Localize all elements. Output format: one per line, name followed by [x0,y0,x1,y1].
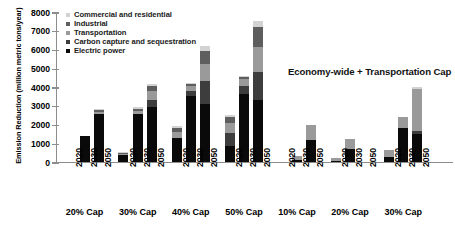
bar-segment-ccs [253,72,263,100]
bar-segment-ccs [239,86,249,94]
x-tick-label-year: 2020 [128,127,138,167]
bar-segment-tr [147,91,157,100]
bar-segment-ccs [200,81,210,104]
legend-label: Transportation [74,28,126,37]
x-tick-label-year: 2020 [340,127,350,167]
y-tick-label: 3000 [16,102,50,110]
x-tick-label-year: 2030 [195,127,205,167]
x-tick-label-year: 2030 [354,127,364,167]
bar-segment-tr [200,64,210,81]
x-tick-label-year: 2050 [103,127,113,167]
y-tick-label: 8000 [16,9,50,17]
x-tick-label-year: 2020 [74,127,84,167]
x-tick-label-year: 2020 [287,127,297,167]
bar-segment-tr [253,47,263,71]
bar-segment-ep [118,155,128,162]
y-tick [52,162,59,163]
x-tick-label-year: 2050 [262,127,272,167]
x-tick-label-year: 2050 [156,127,166,167]
legend-item: Commercial and residential [66,10,196,19]
y-tick-label: 1000 [16,140,50,148]
legend-item: Electric power [66,46,196,55]
x-tick-label-year: 2050 [368,127,378,167]
x-tick-label-year: 2030 [301,127,311,167]
x-tick-label-year: 2050 [209,127,219,167]
chart-root: Emission Reduction (million metric tons/… [0,0,455,234]
bar-segment-ind [253,27,263,48]
legend-item: Transportation [66,28,196,37]
legend-swatch-icon [66,22,70,26]
x-tick-label-year: 2030 [248,127,258,167]
bar-stack [118,152,128,161]
legend-item: Industrial [66,19,196,28]
legend-label: Commercial and residential [74,10,172,19]
legend-label: Carbon capture and sequestration [74,37,196,46]
legend-item: Carbon capture and sequestration [66,37,196,46]
legend-swatch-icon [66,31,70,35]
y-tick-label: 2000 [16,121,50,129]
x-tick-label-year: 2020 [393,127,403,167]
x-tick-label-year: 2020 [181,127,191,167]
x-group-label: 30% Cap [368,207,438,217]
legend-swatch-icon [66,13,70,17]
bar-segment-ind [200,51,210,64]
y-tick-label: 4000 [16,84,50,92]
bar-segment-ccs [147,100,157,108]
legend-swatch-icon [66,40,70,44]
y-tick-label: 0 [16,159,50,167]
y-tick-label: 6000 [16,46,50,54]
legend-label: Electric power [74,46,125,55]
y-tick-label: 5000 [16,65,50,73]
x-tick-label-year: 2050 [421,127,431,167]
legend-swatch-icon [66,49,70,53]
x-tick-label-year: 2020 [234,127,244,167]
x-tick-label-year: 2030 [407,127,417,167]
x-tick-label-year: 2030 [89,127,99,167]
y-tick-label: 7000 [16,27,50,35]
x-tick-label-year: 2050 [315,127,325,167]
annotation-economy-wide-transportation-cap: Economy-wide + Transportation Cap [288,66,451,77]
legend-label: Industrial [74,19,108,28]
x-tick-label-year: 2030 [142,127,152,167]
chart-legend: Commercial and residentialIndustrialTran… [66,10,196,55]
bar-segment-tr [412,89,422,131]
